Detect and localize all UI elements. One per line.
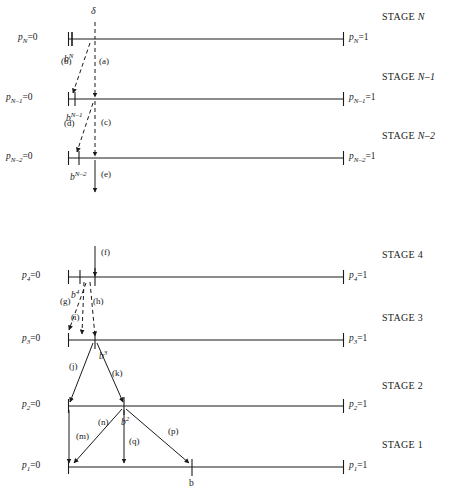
- left-label-stage-4: p4=0: [22, 271, 40, 283]
- stage-title-prefix-stage-n: STAGE: [382, 11, 418, 22]
- left-value-stage-1: =0: [30, 460, 40, 470]
- stage-title-stage-3: STAGE 3: [382, 313, 423, 323]
- left-value-stage-4: =0: [30, 270, 40, 280]
- right-label-stage-n-1: pN–1=1: [349, 93, 376, 105]
- arrow-label-p: (p): [168, 427, 179, 436]
- tick-label-stage-3: b3: [99, 350, 107, 362]
- right-label-stage-4: p4=1: [349, 271, 367, 283]
- arrow-j: [70, 343, 93, 402]
- arrow-label-h: (h): [93, 297, 104, 306]
- arrow-label-b: (b): [61, 57, 72, 66]
- arrow-label-k: (k): [112, 369, 123, 378]
- arrow-b: [73, 43, 90, 93]
- stage-title-id-stage-1: 1: [418, 439, 423, 450]
- left-label-stage-n-1: pN–1=0: [6, 93, 33, 105]
- right-sub-stage-n-2: N–2: [354, 156, 366, 164]
- arrow-i: [82, 282, 84, 334]
- figure-canvas: δ pN=0 pN=1 bN STAGE N pN–1=0 pN–1=1 bN–…: [0, 0, 453, 497]
- tick-label-stage-n-2: bN–2: [70, 171, 86, 183]
- right-value-stage-3: =1: [357, 333, 367, 343]
- left-value-stage-n: =0: [27, 32, 37, 42]
- right-value-stage-2: =1: [357, 399, 367, 409]
- right-label-stage-n: pN=1: [349, 33, 369, 45]
- arrow-h: [90, 282, 95, 336]
- right-label-stage-n-2: pN–2=1: [349, 152, 376, 164]
- tick-b-sup-stage-2: 2: [126, 415, 130, 423]
- left-value-stage-3: =0: [30, 333, 40, 343]
- delta-label: δ: [91, 6, 96, 16]
- tick-b-sup-stage-n-2: N–2: [75, 170, 87, 178]
- tick-label-stage-2: b2: [121, 416, 129, 428]
- stage-title-stage-n-1: STAGE N–1: [382, 72, 435, 82]
- left-sub-stage-n-1: N–1: [11, 97, 23, 105]
- arrow-label-n: (n): [98, 418, 109, 427]
- stage-title-id-stage-n: N: [418, 11, 425, 22]
- right-sub-stage-n-1: N–1: [354, 97, 366, 105]
- left-label-stage-n: pN=0: [18, 33, 38, 45]
- arrow-label-g: (g): [60, 297, 71, 306]
- stage-title-prefix-stage-n-2: STAGE: [382, 130, 418, 141]
- stage-title-prefix-stage-3: STAGE: [382, 312, 418, 323]
- stage-title-stage-1: STAGE 1: [382, 440, 423, 450]
- right-label-stage-1: p1=1: [349, 461, 367, 473]
- right-value-stage-n: =1: [358, 32, 368, 42]
- arrow-label-a: (a): [99, 57, 109, 66]
- right-value-stage-4: =1: [357, 270, 367, 280]
- left-label-stage-n-2: pN–2=0: [6, 152, 33, 164]
- tick-b-sup-stage-4: 4: [76, 288, 80, 296]
- tick-label-stage-1: b: [189, 479, 194, 489]
- right-label-stage-2: p2=1: [349, 400, 367, 412]
- stage-title-stage-n-2: STAGE N–2: [382, 131, 435, 141]
- tick-b-sup-stage-3: 3: [104, 349, 108, 357]
- stage-title-prefix-stage-n-1: STAGE: [382, 71, 418, 82]
- arrow-label-m: (m): [76, 432, 89, 441]
- left-sub-stage-n-2: N–2: [11, 156, 23, 164]
- left-label-stage-2: p2=0: [22, 400, 40, 412]
- arrow-label-q: (q): [129, 437, 140, 446]
- stage-title-prefix-stage-2: STAGE: [382, 380, 418, 391]
- stage-title-id-stage-2: 2: [418, 380, 423, 391]
- arrow-label-e: (e): [101, 170, 111, 179]
- right-value-stage-n-1: =1: [365, 92, 375, 102]
- right-value-stage-n-2: =1: [365, 151, 375, 161]
- left-label-stage-3: p3=0: [22, 334, 40, 346]
- arrow-label-j: (j): [69, 362, 78, 371]
- arrow-label-i: (i): [71, 313, 80, 322]
- stage-title-stage-4: STAGE 4: [382, 250, 423, 260]
- stage-title-id-stage-3: 3: [418, 312, 423, 323]
- stage-title-stage-n: STAGE N: [382, 12, 425, 22]
- stage-title-id-stage-n-2: N–2: [418, 130, 436, 141]
- stage-title-id-stage-n-1: N–1: [418, 71, 436, 82]
- arrow-label-d: (d): [64, 119, 75, 128]
- right-value-stage-1: =1: [357, 460, 367, 470]
- arrow-label-f: (f): [101, 248, 110, 257]
- left-value-stage-n-2: =0: [22, 151, 32, 161]
- stage-title-prefix-stage-1: STAGE: [382, 439, 418, 450]
- left-value-stage-n-1: =0: [22, 92, 32, 102]
- left-value-stage-2: =0: [30, 399, 40, 409]
- left-label-stage-1: p1=0: [22, 461, 40, 473]
- arrow-label-c: (c): [101, 118, 111, 127]
- right-label-stage-3: p3=1: [349, 334, 367, 346]
- stage-title-id-stage-4: 4: [418, 249, 423, 260]
- stage-title-stage-2: STAGE 2: [382, 381, 423, 391]
- stage-title-prefix-stage-4: STAGE: [382, 249, 418, 260]
- tick-label-stage-4: b4: [71, 289, 79, 301]
